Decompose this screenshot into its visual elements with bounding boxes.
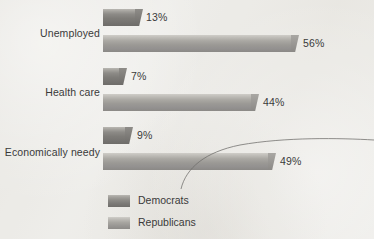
bar-end-cap bbox=[135, 9, 143, 26]
bar-body bbox=[103, 153, 269, 170]
bar-economically-needy-democrats bbox=[103, 127, 133, 144]
value-label-economically-needy-republicans: 49% bbox=[280, 155, 301, 167]
bar-end-cap bbox=[268, 153, 276, 170]
chart-screenshot: Unemployed 13% 56% Health care 7% 44% Ec… bbox=[0, 0, 374, 239]
legend-label-republicans: Republicans bbox=[138, 216, 196, 228]
category-label-economically-needy: Economically needy bbox=[0, 146, 100, 158]
bar-economically-needy-republicans bbox=[103, 153, 276, 170]
bar-health-care-democrats bbox=[103, 68, 127, 85]
bar-body bbox=[103, 9, 136, 26]
category-label-unemployed: Unemployed bbox=[0, 27, 100, 39]
bar-end-cap bbox=[251, 94, 259, 111]
bar-health-care-republicans bbox=[103, 94, 259, 111]
bar-body bbox=[103, 94, 252, 111]
value-label-health-care-republicans: 44% bbox=[263, 96, 284, 108]
grouped-bar-chart: Unemployed 13% 56% Health care 7% 44% Ec… bbox=[0, 0, 374, 239]
bar-body bbox=[103, 127, 126, 144]
legend-label-democrats: Democrats bbox=[138, 194, 189, 206]
bar-end-cap bbox=[119, 68, 127, 85]
bar-body bbox=[103, 68, 120, 85]
bar-body bbox=[103, 35, 292, 52]
republican-swatch-icon bbox=[108, 217, 130, 229]
value-label-health-care-democrats: 7% bbox=[131, 70, 146, 82]
bar-unemployed-republicans bbox=[103, 35, 299, 52]
value-label-unemployed-republicans: 56% bbox=[303, 37, 324, 49]
category-label-health-care: Health care bbox=[0, 86, 100, 98]
bar-end-cap bbox=[125, 127, 133, 144]
bar-end-cap bbox=[291, 35, 299, 52]
bar-unemployed-democrats bbox=[103, 9, 143, 26]
value-label-unemployed-democrats: 13% bbox=[146, 11, 167, 23]
value-label-economically-needy-democrats: 9% bbox=[137, 129, 152, 141]
democrat-swatch-icon bbox=[108, 195, 130, 207]
